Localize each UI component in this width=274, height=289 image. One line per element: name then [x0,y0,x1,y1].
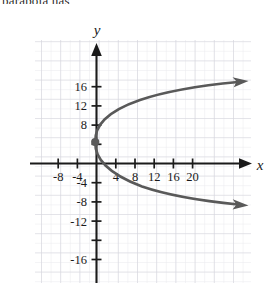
vertex-point-marker [91,138,99,146]
y-axis-label: y [92,22,101,38]
y-tick-label: -16 [70,253,87,267]
x-tick-label: -8 [53,170,63,184]
x-tick-label: 12 [148,170,161,184]
y-tick-label: -8 [77,195,87,209]
y-tick-label: 8 [81,118,87,132]
x-axis-label: x [256,157,264,173]
y-tick-label: 16 [75,80,88,94]
y-tick-label: 12 [75,99,88,113]
x-tick-label: 20 [186,170,199,184]
y-tick-label: -12 [70,215,87,229]
grid-background [35,40,251,283]
parabola-graph-figure: -8 -4 4 8 12 16 20 16 12 8 -4 -8 -12 -16… [0,0,274,289]
y-tick-label: -4 [77,176,88,190]
x-tick-label: 16 [167,170,180,184]
